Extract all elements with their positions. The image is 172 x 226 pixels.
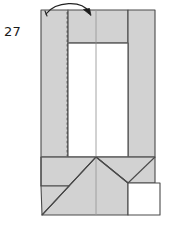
- paper-panel-upper-right: [128, 10, 155, 157]
- paper-window-white: [68, 43, 128, 157]
- paper-panel-top-band: [68, 10, 128, 43]
- paper-panel-upper-left: [41, 10, 68, 157]
- paper-tab-white: [128, 183, 160, 215]
- origami-diagram: [0, 0, 172, 226]
- origami-step-figure: 27: [0, 0, 172, 226]
